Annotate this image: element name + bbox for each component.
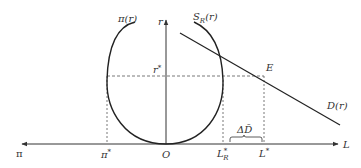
pi-star-sup: * bbox=[108, 148, 112, 156]
delta-d-brace bbox=[230, 135, 262, 142]
d-curve-label: D(r) bbox=[326, 100, 348, 111]
diagram-canvas: π(r) SR(r) D(r) r r* E π L O π* L*R L* Δ… bbox=[0, 0, 361, 168]
equilibrium-label: E bbox=[265, 62, 274, 73]
l-star-label: L* bbox=[258, 147, 270, 159]
l-r-star-sub: R bbox=[222, 154, 229, 162]
pi-arg: (r) bbox=[125, 13, 138, 24]
r-star-sup: * bbox=[158, 64, 162, 72]
d-curve bbox=[180, 33, 340, 125]
pi-curve bbox=[107, 22, 166, 144]
l-r-star-label: L*R bbox=[216, 147, 229, 162]
horizontal-right-label: L bbox=[342, 139, 350, 150]
r-star-label: r* bbox=[153, 64, 162, 75]
l-star-sup: * bbox=[266, 147, 270, 155]
s-arg: (r) bbox=[205, 11, 218, 22]
vertical-axis-label: r bbox=[158, 16, 164, 27]
horizontal-left-label: π bbox=[16, 148, 23, 159]
pi-star-label: π* bbox=[100, 148, 112, 160]
origin-label: O bbox=[162, 149, 170, 160]
s-r-curve bbox=[166, 22, 223, 144]
pi-curve-label: π(r) bbox=[117, 13, 137, 24]
delta-d-label: ΔD̄ bbox=[236, 124, 252, 135]
